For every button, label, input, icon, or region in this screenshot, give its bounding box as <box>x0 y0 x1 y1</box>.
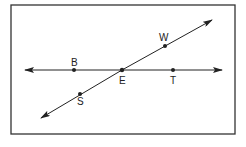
point-E <box>120 68 124 72</box>
point-T <box>171 68 175 72</box>
diagram-canvas: B E T W S <box>0 0 246 147</box>
label-W: W <box>159 32 169 43</box>
label-T: T <box>170 75 176 86</box>
point-B <box>72 68 76 72</box>
label-E: E <box>119 75 126 86</box>
label-S: S <box>77 96 84 107</box>
line-SW <box>122 20 212 70</box>
point-W <box>163 44 167 48</box>
label-B: B <box>71 57 78 68</box>
